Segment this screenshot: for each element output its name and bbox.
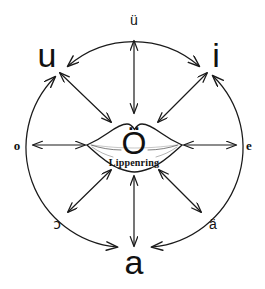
arrow-center-to-ae <box>159 170 201 212</box>
arrow-center-to-openo <box>68 170 111 212</box>
vowel-label-open-o: ɔ <box>53 217 61 231</box>
vowel-label-u: u <box>38 38 57 72</box>
arc-a-to-u <box>26 77 117 247</box>
arc-i-to-a <box>152 76 243 247</box>
lippenring-caption: Lippenring <box>109 158 159 168</box>
vowel-label-e: e <box>246 139 252 152</box>
vowel-label-o: o <box>14 139 21 152</box>
vowel-label-i: i <box>212 38 220 72</box>
vowel-label-ae: ä <box>209 217 217 231</box>
arrow-center-to-u <box>60 73 111 122</box>
vowel-label-ue: ü <box>130 13 138 27</box>
center-vowel-label: Ö <box>122 127 147 159</box>
arrow-center-to-i <box>158 73 207 122</box>
vowel-lip-rounding-diagram: ü i e ä a ɔ o u Ö Lippenring <box>0 0 265 289</box>
vowel-label-a: a <box>125 245 144 279</box>
